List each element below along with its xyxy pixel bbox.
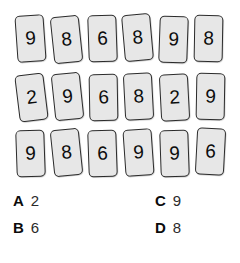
number-card[interactable]: 2: [159, 73, 190, 121]
number-card[interactable]: 9: [196, 73, 226, 120]
card-digit: 9: [133, 142, 145, 162]
number-card[interactable]: 9: [159, 130, 190, 178]
answer-options: A2B6C9D8: [0, 186, 240, 263]
number-card[interactable]: 9: [14, 14, 46, 63]
number-card[interactable]: 8: [123, 72, 154, 120]
card-digit: 6: [97, 143, 108, 162]
card-digit: 6: [205, 141, 216, 161]
number-card[interactable]: 9: [158, 16, 189, 64]
option-value: 9: [173, 192, 181, 209]
answer-option-d[interactable]: D8: [155, 219, 181, 236]
card-digit: 9: [25, 143, 36, 162]
option-letter: A: [13, 192, 24, 209]
card-digit: 9: [61, 86, 73, 106]
card-row: 296829: [0, 71, 240, 123]
number-card-grid: 986898296829986996: [0, 0, 240, 185]
answer-option-a[interactable]: A2: [13, 192, 39, 209]
option-value: 8: [173, 219, 181, 236]
card-row: 986996: [0, 127, 240, 179]
number-card[interactable]: 9: [15, 130, 46, 178]
number-card[interactable]: 8: [50, 128, 84, 178]
card-digit: 2: [25, 87, 38, 107]
number-card[interactable]: 8: [194, 15, 224, 62]
number-card[interactable]: 6: [89, 74, 119, 121]
answer-option-b[interactable]: B6: [13, 219, 39, 236]
number-card[interactable]: 9: [122, 128, 154, 177]
puzzle-stage: 986898296829986996 A2B6C9D8: [0, 0, 240, 263]
number-card[interactable]: 6: [87, 130, 118, 178]
card-digit: 9: [169, 143, 180, 162]
number-card[interactable]: 6: [87, 15, 118, 63]
option-value: 2: [31, 192, 39, 209]
number-card[interactable]: 2: [14, 72, 49, 122]
card-digit: 8: [132, 27, 144, 47]
card-digit: 9: [168, 29, 179, 48]
card-digit: 6: [98, 87, 109, 106]
answer-option-c[interactable]: C9: [155, 192, 181, 209]
card-digit: 9: [205, 86, 216, 105]
card-digit: 8: [60, 29, 72, 49]
number-card[interactable]: 9: [51, 72, 85, 122]
card-digit: 6: [97, 28, 108, 47]
option-letter: C: [155, 192, 166, 209]
number-card[interactable]: 8: [50, 15, 84, 65]
number-card[interactable]: 6: [195, 127, 226, 175]
option-letter: B: [13, 219, 24, 236]
card-digit: 8: [133, 86, 144, 106]
card-row: 986898: [0, 13, 240, 65]
card-digit: 2: [169, 87, 180, 107]
card-digit: 9: [25, 28, 37, 48]
card-digit: 8: [60, 142, 72, 162]
number-card[interactable]: 8: [121, 13, 154, 62]
option-value: 6: [31, 219, 39, 236]
option-letter: D: [155, 219, 166, 236]
card-digit: 8: [203, 28, 214, 47]
